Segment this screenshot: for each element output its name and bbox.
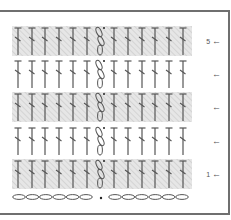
double-crochet-icon — [166, 61, 173, 88]
chain-column-icon — [95, 59, 106, 88]
chain-stitch-icon — [149, 195, 162, 200]
row-label-5: 5 ← — [206, 37, 221, 46]
chain-stitch-icon — [13, 195, 26, 200]
double-crochet-icon — [139, 128, 146, 155]
row-label-3: ← — [212, 103, 221, 112]
arrow-left-icon: ← — [212, 102, 221, 112]
chain-stitch-icon — [80, 195, 93, 200]
double-crochet-icon — [29, 61, 36, 88]
double-crochet-icon — [125, 61, 132, 88]
double-crochet-icon — [125, 128, 132, 155]
slip-stitch-dot-icon — [103, 160, 105, 162]
double-crochet-icon — [56, 128, 63, 155]
double-crochet-icon — [111, 61, 118, 88]
double-crochet-icon — [84, 128, 91, 155]
double-crochet-icon — [152, 128, 159, 155]
row-label-2: ← — [212, 137, 221, 146]
chain-stitch-icon — [122, 195, 135, 200]
slip-stitch-dot-icon — [103, 60, 105, 62]
double-crochet-icon — [70, 61, 77, 88]
double-crochet-icon — [180, 61, 187, 88]
chain-column-icon — [95, 126, 106, 155]
double-crochet-icon — [139, 61, 146, 88]
chain-stitch-icon — [53, 195, 66, 200]
slip-stitch-dot-icon — [103, 27, 105, 29]
chain-stitch-icon — [66, 195, 79, 200]
arrow-left-icon: ← — [212, 36, 221, 46]
double-crochet-icon — [84, 61, 91, 88]
chain-stitch-icon — [109, 195, 122, 200]
chain-stitch-icon — [176, 195, 189, 200]
double-crochet-icon — [29, 128, 36, 155]
double-crochet-icon — [70, 128, 77, 155]
row-label-4: ← — [212, 70, 221, 79]
chain-stitch-icon — [26, 195, 39, 200]
arrow-left-icon: ← — [212, 136, 221, 146]
double-crochet-icon — [111, 128, 118, 155]
chain-stitch-icon — [136, 195, 149, 200]
double-crochet-icon — [180, 128, 187, 155]
double-crochet-icon — [15, 128, 22, 155]
double-crochet-icon — [15, 61, 22, 88]
double-crochet-icon — [56, 61, 63, 88]
slip-stitch-dot-icon — [103, 127, 105, 129]
chain-stitch-icon — [40, 195, 53, 200]
stitch-row-4 — [15, 59, 187, 88]
double-crochet-icon — [42, 128, 49, 155]
arrow-left-icon: ← — [212, 69, 221, 79]
row-label-1: 1 ← — [206, 170, 221, 179]
double-crochet-icon — [42, 61, 49, 88]
chain-stitch-icon — [162, 195, 175, 200]
crochet-chart — [0, 0, 231, 220]
foundation-chain — [13, 195, 189, 200]
double-crochet-icon — [152, 61, 159, 88]
stitch-row-2 — [15, 126, 187, 155]
slip-stitch-dot-icon — [100, 197, 102, 199]
slip-stitch-dot-icon — [103, 93, 105, 95]
arrow-left-icon: ← — [212, 169, 221, 179]
double-crochet-icon — [166, 128, 173, 155]
